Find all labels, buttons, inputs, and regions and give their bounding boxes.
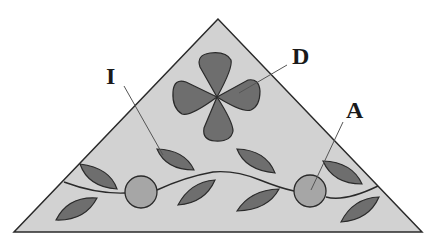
label-A: A: [346, 97, 364, 123]
circle-left: [125, 176, 157, 208]
label-I: I: [106, 63, 115, 89]
circle-A: [294, 175, 326, 207]
label-D: D: [292, 43, 309, 69]
triangle-design-diagram: I D A: [0, 0, 441, 235]
diagram-svg: I D A: [0, 0, 441, 235]
